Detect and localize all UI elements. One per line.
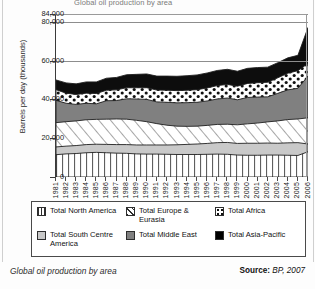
y-tick-mark-60000	[50, 61, 55, 62]
legend-label: Total South Centre America	[50, 230, 124, 249]
y-tick-mark-40000	[50, 99, 55, 100]
x-tick-mark-1982	[65, 177, 66, 181]
x-tick-mark-1991	[156, 177, 157, 181]
x-tick-label-1986: 1986	[102, 182, 109, 198]
x-tick-label-1982: 1982	[62, 182, 69, 198]
x-tick-mark-1997	[216, 177, 217, 181]
x-tick-label-2006: 2006	[304, 182, 311, 198]
legend-swatch-solid-icon	[37, 231, 46, 240]
legend-swatch-solid-icon	[215, 231, 224, 240]
x-tick-label-2000: 2000	[243, 182, 250, 198]
y-axis-title-label: Barrels per day (thousands)	[18, 27, 27, 147]
x-tick-label-1999: 1999	[233, 182, 240, 198]
x-tick-label-2004: 2004	[283, 182, 290, 198]
x-tick-label-1990: 1990	[142, 182, 149, 198]
x-tick-label-1985: 1985	[92, 182, 99, 198]
legend-item-total-south-centre-america[interactable]: Total South Centre America	[37, 230, 124, 253]
x-tick-mark-1990	[146, 177, 147, 181]
x-tick-mark-1981	[55, 177, 56, 181]
legend-item-total-asia-pacific[interactable]: Total Asia-Pacific	[215, 230, 302, 253]
legend-label: Total North America	[50, 206, 116, 215]
clipped-chart-title: Global oil production by area	[74, 0, 306, 7]
x-tick-mark-1992	[166, 177, 167, 181]
x-tick-mark-2005	[297, 177, 298, 181]
y-tick-label-40000: 40,000	[18, 94, 64, 103]
y-tick-label-60000: 60,000	[18, 56, 64, 65]
x-tick-mark-1995	[196, 177, 197, 181]
x-tick-label-1994: 1994	[183, 182, 190, 198]
source-label: Source:	[240, 266, 270, 275]
x-tick-mark-1998	[226, 177, 227, 181]
x-tick-mark-1983	[75, 177, 76, 181]
legend-label: Total Africa	[228, 206, 265, 215]
x-tick-mark-1985	[95, 177, 96, 181]
x-tick-label-1989: 1989	[132, 182, 139, 198]
x-tick-label-1996: 1996	[203, 182, 210, 198]
y-tick-mark-84000	[50, 14, 55, 15]
x-tick-label-2002: 2002	[263, 182, 270, 198]
gridline-80000	[56, 22, 308, 23]
legend-label: Total Europe & Eurasia	[139, 206, 213, 225]
y-tick-label-84000: 84,000	[18, 9, 64, 18]
x-tick-label-1988: 1988	[122, 182, 129, 198]
legend-item-total-africa[interactable]: Total Africa	[215, 206, 302, 229]
x-tick-label-1991: 1991	[152, 182, 159, 198]
x-tick-label-2005: 2005	[293, 182, 300, 198]
x-tick-mark-1988	[126, 177, 127, 181]
x-tick-mark-1996	[206, 177, 207, 181]
x-tick-mark-2003	[277, 177, 278, 181]
legend-label: Total Middle East	[139, 230, 197, 239]
x-tick-mark-1984	[85, 177, 86, 181]
legend-swatch-dots-icon	[215, 207, 224, 216]
x-tick-mark-1999	[236, 177, 237, 181]
source-value: BP, 2007	[272, 266, 305, 275]
x-tick-mark-1993	[176, 177, 177, 181]
legend-item-total-europe-eurasia[interactable]: Total Europe & Eurasia	[126, 206, 213, 229]
x-tick-label-1992: 1992	[162, 182, 169, 198]
legend-label: Total Asia-Pacific	[228, 230, 285, 239]
gridline-84000	[56, 14, 308, 15]
stacked-area-series	[56, 14, 308, 177]
gridline-60000	[56, 61, 308, 62]
x-tick-mark-1986	[105, 177, 106, 181]
legend-item-total-middle-east[interactable]: Total Middle East	[126, 230, 213, 253]
legend: Total North AmericaTotal Europe & Eurasi…	[31, 201, 306, 257]
y-tick-label-0: 0	[18, 172, 64, 181]
x-tick-label-1984: 1984	[82, 182, 89, 198]
x-tick-mark-2000	[247, 177, 248, 181]
figure-container: Global oil production by area Barrels pe…	[0, 0, 315, 289]
x-tick-mark-2006	[307, 177, 308, 181]
x-tick-label-1995: 1995	[193, 182, 200, 198]
x-tick-label-1983: 1983	[72, 182, 79, 198]
y-tick-mark-80000	[50, 22, 55, 23]
x-tick-mark-1987	[116, 177, 117, 181]
x-tick-mark-2001	[257, 177, 258, 181]
legend-swatch-vertical-lines-icon	[37, 207, 46, 216]
figure-source: Source: BP, 2007	[240, 266, 305, 275]
x-tick-label-2001: 2001	[253, 182, 260, 198]
plot-region	[55, 14, 307, 177]
figure-caption: Global oil production by area	[10, 266, 117, 276]
legend-swatch-solid-icon	[126, 231, 135, 240]
area-band-total-north-america	[56, 152, 308, 177]
y-tick-mark-20000	[50, 138, 55, 139]
x-tick-label-1998: 1998	[223, 182, 230, 198]
x-tick-label-1997: 1997	[213, 182, 220, 198]
y-tick-label-20000: 20,000	[18, 133, 64, 142]
y-tick-label-80000: 80,000	[18, 17, 64, 26]
x-tick-label-1993: 1993	[173, 182, 180, 198]
chart-area: Barrels per day (thousands)	[0, 10, 315, 196]
x-tick-mark-1989	[136, 177, 137, 181]
x-tick-label-2003: 2003	[273, 182, 280, 198]
x-tick-mark-2002	[267, 177, 268, 181]
legend-item-total-north-america[interactable]: Total North America	[37, 206, 124, 229]
legend-swatch-diagonal-hatch-icon	[126, 207, 135, 216]
x-tick-mark-2004	[287, 177, 288, 181]
x-tick-mark-1994	[186, 177, 187, 181]
x-tick-label-1981: 1981	[52, 182, 59, 198]
x-tick-label-1987: 1987	[112, 182, 119, 198]
